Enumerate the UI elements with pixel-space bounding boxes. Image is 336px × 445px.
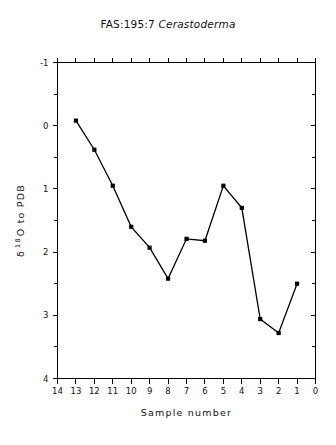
y-tick-label: 4 xyxy=(43,374,48,384)
chart-container: FAS:195:7 Cerastoderma 14131211109876543… xyxy=(0,0,336,445)
y-tick-label: 1 xyxy=(43,184,48,194)
y-axis-title-rest: O to PDB xyxy=(15,184,26,236)
x-tick-label: 7 xyxy=(184,386,189,396)
x-tick-label: 11 xyxy=(107,386,118,396)
data-point-marker xyxy=(148,246,152,250)
x-tick-label: 0 xyxy=(313,386,318,396)
x-tick-label: 13 xyxy=(71,386,82,396)
data-point-marker xyxy=(203,239,207,243)
data-point-marker xyxy=(240,206,244,210)
y-tick-label: 3 xyxy=(43,310,48,320)
x-tick-label: 4 xyxy=(239,386,244,396)
x-tick-label: 10 xyxy=(126,386,137,396)
data-point-marker xyxy=(92,148,96,152)
x-tick-label: 12 xyxy=(89,386,100,396)
x-axis-title: Sample number xyxy=(141,407,232,418)
x-tick-label: 6 xyxy=(202,386,207,396)
x-tick-label: 14 xyxy=(52,386,63,396)
data-point-marker xyxy=(295,282,299,286)
x-tick-label: 2 xyxy=(276,386,281,396)
x-tick-label: 9 xyxy=(147,386,152,396)
x-tick-label: 3 xyxy=(258,386,263,396)
x-tick-label: 1 xyxy=(294,386,299,396)
y-tick-label: 2 xyxy=(43,247,48,257)
x-tick-label: 5 xyxy=(221,386,226,396)
y-axis-title-superscript: 18 xyxy=(14,237,22,248)
data-point-marker xyxy=(258,317,262,321)
data-point-marker xyxy=(74,119,78,123)
y-tick-label: -1 xyxy=(40,58,48,68)
data-point-marker xyxy=(129,225,133,229)
tick-labels-group: 14131211109876543210-101234 xyxy=(40,58,318,396)
ticks-group xyxy=(53,58,316,384)
data-line-series xyxy=(76,121,297,333)
y-axis-title: δ18O to PDB xyxy=(14,184,26,257)
y-tick-label: 0 xyxy=(43,121,48,131)
data-point-marker xyxy=(277,331,281,335)
data-point-marker xyxy=(184,237,188,241)
x-tick-label: 8 xyxy=(165,386,170,396)
plot-svg: 14131211109876543210-101234 Sample numbe… xyxy=(0,0,336,445)
data-point-marker xyxy=(221,184,225,188)
y-axis-title-delta: δ xyxy=(15,250,26,257)
data-point-marker xyxy=(111,184,115,188)
data-point-marker xyxy=(166,277,170,281)
data-series-group xyxy=(74,119,299,336)
